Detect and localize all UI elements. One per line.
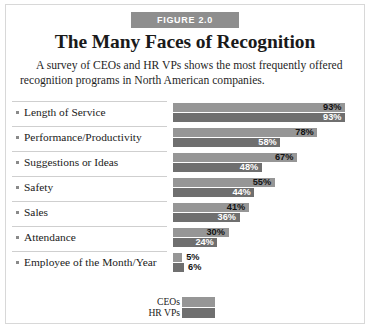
- row-divider: [12, 176, 167, 177]
- bar-value-label-ceo: 67%: [275, 153, 293, 162]
- legend-swatch: [182, 308, 215, 318]
- bar-group: 78%58%: [173, 128, 362, 149]
- bullet-icon: [16, 211, 19, 214]
- bar-value-label-hr: 93%: [323, 113, 341, 122]
- bar-group: 93%93%: [173, 103, 362, 124]
- bullet-icon: [16, 186, 19, 189]
- category-label-text: Safety: [24, 181, 53, 193]
- chart-row: Suggestions or Ideas67%48%: [6, 151, 364, 176]
- figure-number-banner: FIGURE 2.0: [131, 12, 239, 28]
- row-divider: [12, 151, 167, 152]
- chart-row: Sales41%36%: [6, 201, 364, 226]
- bar-group: 55%44%: [173, 178, 362, 199]
- bar-group: 67%48%: [173, 153, 362, 174]
- bar-value-label-hr: 24%: [195, 238, 213, 247]
- chart-row: Safety55%44%: [6, 176, 364, 201]
- legend-entry: HR VPs: [124, 308, 244, 319]
- bar-ceo: [173, 253, 182, 262]
- category-label-text: Employee of the Month/Year: [24, 256, 157, 268]
- bullet-icon: [16, 111, 19, 114]
- bar-value-label-ceo: 93%: [323, 103, 341, 112]
- row-divider: [12, 126, 167, 127]
- legend-swatch: [182, 297, 215, 307]
- category-label: Safety: [16, 181, 53, 193]
- bar-group: 30%24%: [173, 228, 362, 249]
- bar-value-label-hr: 36%: [218, 213, 236, 222]
- category-label: Attendance: [16, 231, 76, 243]
- bullet-icon: [16, 236, 19, 239]
- bullet-icon: [16, 261, 19, 264]
- bar-value-label-hr: 44%: [232, 188, 250, 197]
- bar-value-label-hr: 48%: [240, 163, 258, 172]
- bar-ceo: [173, 103, 345, 112]
- chart-row: Attendance30%24%: [6, 226, 364, 251]
- bullet-icon: [16, 161, 19, 164]
- bar-hr: [173, 113, 345, 122]
- figure-subtitle: A survey of CEOs and HR VPs shows the mo…: [20, 59, 352, 88]
- bar-value-label-hr: 58%: [258, 138, 276, 147]
- row-divider: [12, 226, 167, 227]
- category-label-text: Sales: [24, 206, 48, 218]
- category-label: Performance/Productivity: [16, 131, 142, 143]
- figure-panel: FIGURE 2.0 The Many Faces of Recognition…: [5, 4, 365, 324]
- bar-value-label-ceo: 5%: [186, 253, 199, 262]
- bar-value-label-ceo: 30%: [207, 228, 225, 237]
- category-label-text: Suggestions or Ideas: [24, 156, 118, 168]
- row-divider: [12, 201, 167, 202]
- category-label-text: Performance/Productivity: [24, 131, 142, 143]
- chart-row: Length of Service93%93%: [6, 101, 364, 126]
- category-label: Suggestions or Ideas: [16, 156, 118, 168]
- category-label: Length of Service: [16, 106, 106, 118]
- chart-row: Employee of the Month/Year5%6%: [6, 251, 364, 276]
- legend-entry: CEOs: [124, 297, 244, 308]
- legend-label: CEOs: [157, 296, 180, 307]
- bar-chart-plot: Length of Service93%93%Performance/Produ…: [6, 101, 364, 276]
- category-label-text: Length of Service: [24, 106, 106, 118]
- bar-group: 41%36%: [173, 203, 362, 224]
- chart-row: Performance/Productivity78%58%: [6, 126, 364, 151]
- figure-title: The Many Faces of Recognition: [6, 31, 364, 53]
- bar-value-label-ceo: 55%: [253, 178, 271, 187]
- bar-hr: [173, 263, 184, 272]
- legend-label: HR VPs: [148, 307, 180, 318]
- bullet-icon: [16, 136, 19, 139]
- category-label: Sales: [16, 206, 48, 218]
- bar-value-label-ceo: 41%: [227, 203, 245, 212]
- bar-value-label-ceo: 78%: [295, 128, 313, 137]
- row-divider: [12, 101, 167, 102]
- category-label: Employee of the Month/Year: [16, 256, 157, 268]
- chart-legend: CEOsHR VPs: [6, 297, 364, 323]
- category-label-text: Attendance: [24, 231, 76, 243]
- row-divider: [12, 251, 167, 252]
- bar-value-label-hr: 6%: [188, 263, 201, 272]
- bar-group: 5%6%: [173, 253, 362, 274]
